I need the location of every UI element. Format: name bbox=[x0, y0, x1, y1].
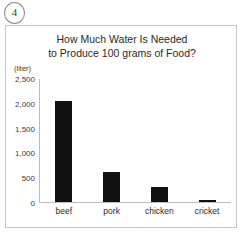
bar-slot bbox=[136, 79, 184, 202]
bar-chicken[interactable] bbox=[151, 187, 168, 202]
y-axis-unit-label: (liter) bbox=[14, 64, 31, 73]
y-axis-tick-label: 2,000 bbox=[15, 99, 35, 108]
plot-area: 2,5002,0001,5001,0005000 bbox=[39, 79, 231, 203]
x-axis-tick-label-beef: beef bbox=[40, 206, 88, 216]
x-axis-tick-label-pork: pork bbox=[88, 206, 136, 216]
bar-slot bbox=[88, 79, 136, 202]
y-axis-tick-label: 500 bbox=[22, 174, 35, 183]
bar-cricket[interactable] bbox=[199, 200, 216, 202]
x-axis-tick-label-chicken: chicken bbox=[136, 206, 184, 216]
x-axis-line bbox=[39, 202, 231, 203]
chart-container: How Much Water Is Needed to Produce 100 … bbox=[5, 25, 237, 228]
bar-beef[interactable] bbox=[55, 101, 72, 202]
chart-title-line-2: to Produce 100 grams of Food? bbox=[18, 46, 226, 60]
bar-slot bbox=[40, 79, 88, 202]
x-axis-tick-labels: beefporkchickencricket bbox=[40, 206, 231, 216]
y-axis-tick-label: 2,500 bbox=[15, 75, 35, 84]
bar-pork[interactable] bbox=[103, 172, 120, 202]
y-axis-tick-label: 1,500 bbox=[15, 124, 35, 133]
chart-title: How Much Water Is Needed to Produce 100 … bbox=[18, 32, 226, 60]
y-axis-tick-label: 0 bbox=[31, 199, 35, 208]
bar-series bbox=[40, 79, 231, 202]
chart-page: 4 How Much Water Is Needed to Produce 10… bbox=[0, 0, 242, 232]
x-axis-tick-label-cricket: cricket bbox=[183, 206, 231, 216]
chart-title-line-1: How Much Water Is Needed bbox=[18, 32, 226, 46]
question-number-marker: 4 bbox=[4, 2, 25, 24]
bar-slot bbox=[183, 79, 231, 202]
y-axis-tick-label: 1,000 bbox=[15, 149, 35, 158]
